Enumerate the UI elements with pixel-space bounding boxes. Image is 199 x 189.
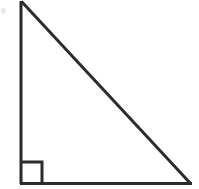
right-triangle-figure bbox=[0, 0, 199, 189]
diagram-canvas: A right triangle with the right angle at… bbox=[0, 0, 199, 189]
scan-smudge-artifact bbox=[1, 8, 6, 14]
